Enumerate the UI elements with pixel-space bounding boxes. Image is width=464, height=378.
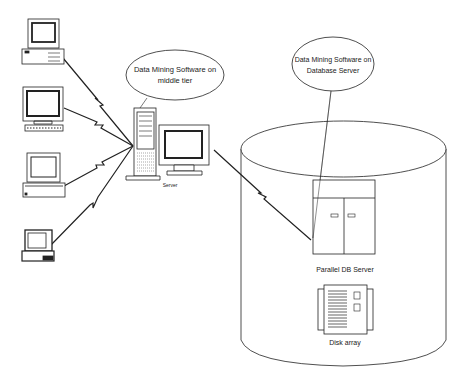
server-label: Server — [155, 180, 185, 190]
server-icon — [126, 108, 209, 180]
laptop-icon — [22, 230, 54, 261]
callout-db-server-line2: Database Server — [290, 65, 376, 76]
connection-desktop-pc — [63, 58, 133, 146]
callout-middle-tier: Data Mining Software on middle tier — [128, 64, 222, 86]
connection-desktop-flat — [64, 146, 133, 186]
diagram-canvas — [0, 0, 464, 378]
parallel-db-server-label: Parallel DB Server — [300, 265, 390, 275]
desktop-flat-icon — [23, 153, 65, 197]
callout-middle-tier-line1: Data Mining Software on — [128, 64, 222, 75]
callout-db-server-line1: Data Mining Software on — [290, 54, 376, 65]
desktop-pc-icon — [22, 19, 64, 64]
disk-array-icon — [318, 285, 373, 334]
callout-middle-tier-line2: middle tier — [128, 75, 222, 86]
workstation-icon — [23, 87, 63, 131]
disk-array-label: Disk array — [315, 338, 375, 348]
callout-db-server: Data Mining Software on Database Server — [290, 54, 376, 76]
connection-workstation — [64, 108, 133, 146]
